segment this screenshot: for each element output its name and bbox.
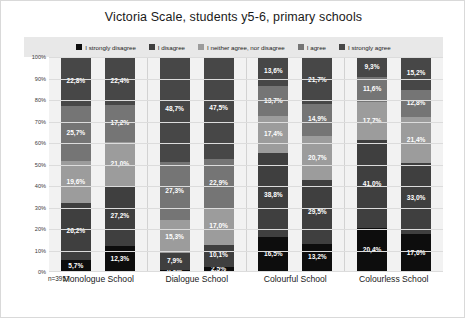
gridline — [49, 79, 443, 80]
gridline — [49, 271, 443, 272]
bar-segment: 17,0% — [204, 208, 234, 245]
y-axis-tick: 60% — [35, 140, 46, 146]
y-axis-tick: 50% — [35, 162, 46, 168]
bar-segment: 14,9% — [302, 104, 332, 136]
legend-item-label: I strongly agree — [348, 44, 391, 51]
gridline — [49, 57, 443, 58]
gridline — [49, 143, 443, 144]
x-axis-label-3: Colourless School — [345, 274, 444, 288]
legend-swatch-icon — [339, 44, 345, 50]
y-axis-tick: 30% — [35, 205, 46, 211]
legend-item-0[interactable]: I strongly disagree — [76, 44, 136, 51]
y-axis-tick: 40% — [35, 183, 46, 189]
bar-segment: 21,7% — [302, 57, 332, 104]
chart-title: Victoria Scale, students y5-6, primary s… — [1, 10, 465, 24]
bar-segment: 12,8% — [401, 90, 431, 118]
legend-swatch-icon — [76, 44, 82, 50]
bar-segment: 13,6% — [258, 57, 288, 86]
legend-item-label: I neither agree, nor disagree — [207, 44, 285, 51]
y-axis-tick: 10% — [35, 248, 46, 254]
bar-segment: 29,5% — [302, 180, 332, 243]
x-axis-labels: Monologue SchoolDialogue SchoolColourful… — [49, 274, 443, 288]
y-axis-tick: 80% — [35, 97, 46, 103]
y-axis-tick: 90% — [35, 76, 46, 82]
legend-swatch-icon — [298, 44, 304, 50]
gridline — [49, 100, 443, 101]
legend-item-label: I strongly disagree — [85, 44, 136, 51]
bar-segment: 22,4% — [105, 57, 135, 105]
gridline — [49, 186, 443, 187]
bar-segment: 15,3% — [160, 220, 190, 253]
y-axis-tick: 70% — [35, 119, 46, 125]
legend-item-2[interactable]: I neither agree, nor disagree — [198, 44, 285, 51]
bar-segment: 7,9% — [160, 253, 190, 270]
legend-swatch-icon — [198, 44, 204, 50]
bar-segment: 27,3% — [160, 162, 190, 221]
bar-segment: 16,5% — [258, 237, 288, 272]
gridline — [49, 122, 443, 123]
bar-segment: 10,1% — [204, 245, 234, 267]
gridline — [49, 208, 443, 209]
legend-item-label: I agree — [307, 44, 326, 51]
bar-segment: 9,3% — [357, 57, 387, 77]
bar-segment: 27,2% — [105, 187, 135, 245]
bar-segment: 19,6% — [61, 161, 91, 203]
legend-item-3[interactable]: I agree — [298, 44, 326, 51]
chart-legend: I strongly disagreeI disagreeI neither a… — [24, 37, 443, 57]
y-axis-tick: 0% — [38, 269, 46, 275]
bar-segment: 13,2% — [302, 244, 332, 272]
bar-segment: 48,7% — [160, 57, 190, 162]
legend-swatch-icon — [149, 44, 155, 50]
gridline — [49, 229, 443, 230]
y-axis: 100%90%80%70%60%50%40%30%20%10%0% — [24, 57, 48, 272]
legend-item-4[interactable]: I strongly agree — [339, 44, 391, 51]
bar-segment: 11,6% — [357, 77, 387, 102]
x-axis-label-2: Colourful School — [246, 274, 345, 288]
sample-size-label: n=3957 — [48, 275, 70, 282]
bar-segment: 41,0% — [357, 140, 387, 228]
chart-container: Victoria Scale, students y5-6, primary s… — [0, 0, 465, 318]
bar-segment: 25,7% — [61, 106, 91, 161]
plot-area: 22,8%25,7%19,6%26,2%5,7%22,4%17,2%21,0%2… — [49, 57, 443, 272]
gridline — [49, 251, 443, 252]
gridline — [49, 165, 443, 166]
bar-segment: 17,2% — [105, 105, 135, 142]
plot-wrapper: 100%90%80%70%60%50%40%30%20%10%0% 22,8%2… — [24, 57, 443, 286]
legend-item-1[interactable]: I disagree — [149, 44, 185, 51]
y-axis-tick: 20% — [35, 226, 46, 232]
bar-segment: 22,9% — [204, 159, 234, 208]
bar-segment: 17,6% — [401, 234, 431, 272]
legend-item-label: I disagree — [158, 44, 185, 51]
bar-segment: 38,8% — [258, 153, 288, 236]
bar-segment: 33,0% — [401, 163, 431, 234]
x-axis-label-1: Dialogue School — [148, 274, 247, 288]
bar-segment: 22,8% — [61, 57, 91, 106]
bar-segment: 21,4% — [401, 117, 431, 163]
y-axis-tick: 100% — [32, 54, 46, 60]
bar-segment: 15,2% — [401, 57, 431, 90]
